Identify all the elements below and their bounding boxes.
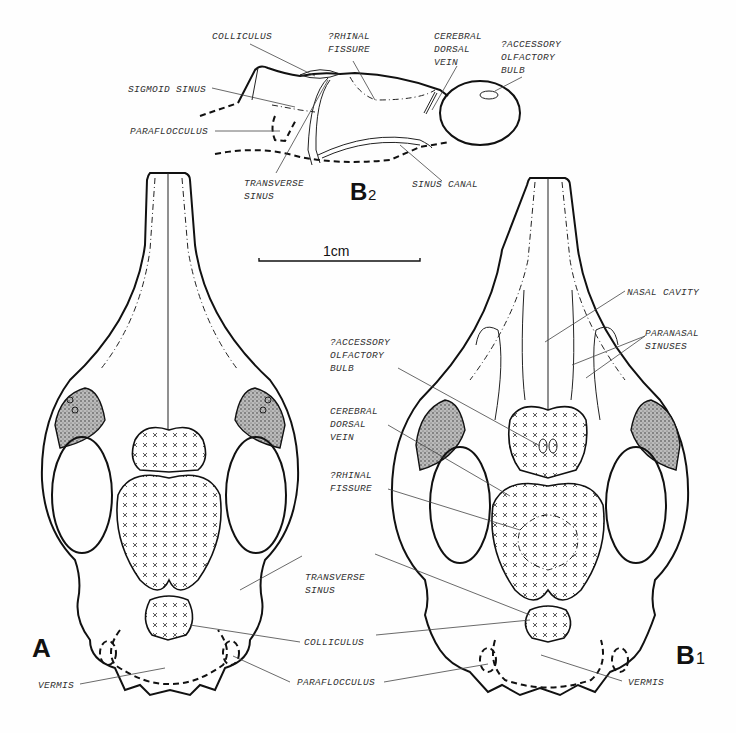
b2-label-transverse-sinus-1: TRANSVERSE <box>244 178 304 189</box>
b1-label-cerebral-dorsal-vein-1: CEREBRAL <box>330 406 378 417</box>
panel-label-b1-subscript: 1 <box>696 650 705 667</box>
panel-label-b2-subscript: 2 <box>368 186 376 203</box>
a-label-vermis: VERMIS <box>38 680 74 691</box>
b1-label-accessory-olfactory-bulb-2: OLFACTORY <box>330 350 385 361</box>
label-transverse-sinus-2: SINUS <box>305 585 335 596</box>
panel-b2-lateral-brain <box>200 66 520 165</box>
b1-label-accessory-olfactory-bulb-3: BULB <box>330 363 354 374</box>
b2-label-transverse-sinus-2: SINUS <box>244 191 274 202</box>
b1-label-rhinal-fissure-2: FISSURE <box>330 483 372 494</box>
label-transverse-sinus-1: TRANSVERSE <box>305 572 365 583</box>
b1-label-paranasal-sinuses-1: PARANASAL <box>645 328 699 339</box>
b2-label-rhinal-fissure-1: ?RHINAL <box>328 31 370 42</box>
b2-label-sinus-canal: SINUS CANAL <box>412 179 478 190</box>
b2-label-cerebral-dorsal-vein-3: VEIN <box>434 57 458 68</box>
b1-label-paranasal-sinuses-2: SINUSES <box>645 341 687 352</box>
scale-bar-label: 1cm <box>323 243 349 259</box>
b2-label-cerebral-dorsal-vein-2: DORSAL <box>434 44 470 55</box>
panel-a-skull <box>42 173 298 695</box>
panel-label-b1: B <box>676 640 695 670</box>
figure-canvas: COLLICULUS ?RHINAL FISSURE CEREBRAL DORS… <box>0 0 736 733</box>
b2-label-accessory-olfactory-bulb-3: BULB <box>501 65 525 76</box>
b2-label-cerebral-dorsal-vein-1: CEREBRAL <box>434 31 482 42</box>
b2-label-paraflocculus: PARAFLOCCULUS <box>130 126 208 137</box>
b1-label-nasal-cavity: NASAL CAVITY <box>627 287 700 298</box>
b1-label-cerebral-dorsal-vein-3: VEIN <box>330 432 354 443</box>
b1-label-cerebral-dorsal-vein-2: DORSAL <box>330 419 366 430</box>
b1-label-accessory-olfactory-bulb-1: ?ACCESSORY <box>330 337 391 348</box>
b2-label-accessory-olfactory-bulb-2: OLFACTORY <box>501 52 556 63</box>
panel-label-b2: B <box>350 178 367 205</box>
b1-label-vermis: VERMIS <box>628 677 664 688</box>
b2-label-rhinal-fissure-2: FISSURE <box>328 44 370 55</box>
label-paraflocculus: PARAFLOCCULUS <box>297 677 375 688</box>
panel-b1-skull <box>392 178 688 695</box>
label-colliculus: COLLICULUS <box>304 637 364 648</box>
b2-label-colliculus: COLLICULUS <box>212 31 272 42</box>
b2-label-accessory-olfactory-bulb-1: ?ACCESSORY <box>501 39 562 50</box>
panel-label-a: A <box>32 633 51 663</box>
b2-leader-lines <box>212 44 522 181</box>
b1-label-rhinal-fissure-1: ?RHINAL <box>330 470 372 481</box>
b2-label-sigmoid-sinus: SIGMOID SINUS <box>128 84 206 95</box>
